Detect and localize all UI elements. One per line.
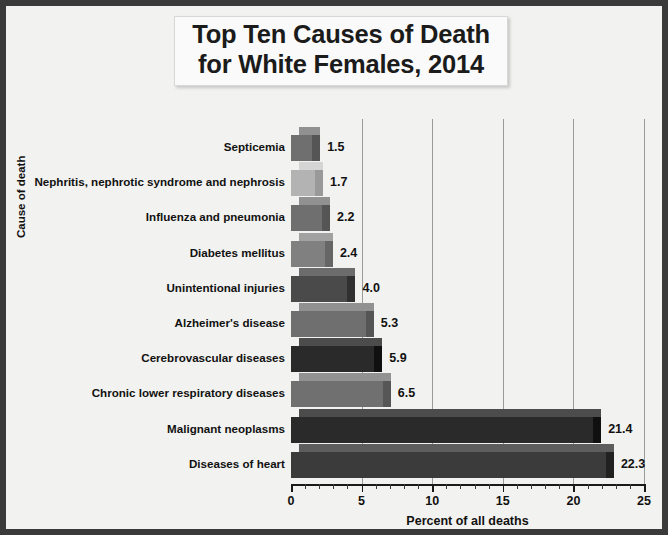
- x-tick-major: [362, 484, 364, 492]
- bar-top-face: [299, 303, 374, 311]
- category-label: Unintentional injuries: [32, 281, 285, 294]
- bar-front-face: [291, 417, 593, 443]
- bar-value-label: 4.0: [362, 281, 379, 295]
- bar: [291, 268, 355, 302]
- x-tick-minor: [305, 484, 306, 489]
- bar-value-label: 2.4: [340, 246, 357, 260]
- x-tick-minor: [475, 484, 476, 489]
- bar-value-label: 1.7: [330, 175, 347, 189]
- x-axis-title: Percent of all deaths: [291, 514, 644, 528]
- x-tick-minor: [347, 484, 348, 489]
- bar-front-face: [291, 241, 325, 267]
- x-tick-minor: [446, 484, 447, 489]
- bar-front-face: [291, 135, 312, 161]
- bar-value-label: 6.5: [398, 386, 415, 400]
- bar-value-label: 21.4: [608, 422, 632, 436]
- x-tick-major: [432, 484, 434, 492]
- x-tick-label: 25: [624, 494, 664, 508]
- x-tick-label: 10: [412, 494, 452, 508]
- bar: [291, 197, 330, 231]
- x-tick-minor: [376, 484, 377, 489]
- bar-front-face: [291, 311, 366, 337]
- category-label: Influenza and pneumonia: [32, 210, 285, 223]
- y-axis-title: Cause of death: [15, 88, 27, 238]
- chart-title-line-2: for White Females, 2014: [175, 50, 507, 80]
- x-tick-minor: [517, 484, 518, 489]
- x-tick-major: [503, 484, 505, 492]
- bar-value-label: 1.5: [327, 140, 344, 154]
- chart-title-line-1: Top Ten Causes of Death: [175, 20, 507, 50]
- x-tick-minor: [588, 484, 589, 489]
- x-tick-label: 15: [483, 494, 523, 508]
- bar-front-face: [291, 205, 322, 231]
- category-label: Diseases of heart: [32, 457, 285, 470]
- x-tick-major: [291, 484, 293, 492]
- bar: [291, 233, 333, 267]
- bar-front-face: [291, 170, 315, 196]
- bar-top-face: [299, 233, 333, 241]
- bar: [291, 373, 391, 407]
- category-label: Diabetes mellitus: [32, 246, 285, 259]
- bar-value-label: 22.3: [621, 457, 645, 471]
- category-axis-labels: SepticemiaNephritis, nephrotic syndrome …: [32, 119, 285, 484]
- x-tick-minor: [460, 484, 461, 489]
- plot-area: 1.51.72.22.44.05.35.96.521.422.3: [291, 119, 644, 484]
- category-label: Chronic lower respiratory diseases: [32, 386, 285, 399]
- x-axis-line: [291, 484, 644, 486]
- x-tick-minor: [602, 484, 603, 489]
- x-tick-minor: [531, 484, 532, 489]
- bar-front-face: [291, 452, 606, 478]
- bar-top-face: [299, 444, 614, 452]
- bar: [291, 303, 374, 337]
- bar: [291, 444, 614, 478]
- x-tick-major: [573, 484, 575, 492]
- x-tick-minor: [559, 484, 560, 489]
- x-tick-minor: [319, 484, 320, 489]
- bar-front-face: [291, 346, 374, 372]
- x-tick-minor: [404, 484, 405, 489]
- bar-front-face: [291, 276, 347, 302]
- bar-top-face: [299, 338, 382, 346]
- category-label: Septicemia: [32, 140, 285, 153]
- bar-value-label: 5.3: [381, 316, 398, 330]
- x-tick-label: 20: [553, 494, 593, 508]
- x-tick-major: [644, 484, 646, 492]
- category-label: Malignant neoplasms: [32, 422, 285, 435]
- bar: [291, 338, 382, 372]
- bar: [291, 127, 320, 161]
- bar-value-label: 5.9: [389, 351, 406, 365]
- x-tick-minor: [390, 484, 391, 489]
- gridline: [644, 119, 645, 484]
- x-tick-minor: [489, 484, 490, 489]
- category-label: Nephritis, nephrotic syndrome and nephro…: [32, 175, 285, 188]
- bar-top-face: [299, 373, 391, 381]
- bar-front-face: [291, 381, 383, 407]
- x-tick-minor: [333, 484, 334, 489]
- bar: [291, 409, 601, 443]
- x-axis: 0510152025: [291, 484, 644, 514]
- x-tick-label: 0: [271, 494, 311, 508]
- bar-value-label: 2.2: [337, 210, 354, 224]
- bar-top-face: [299, 409, 601, 417]
- x-tick-minor: [418, 484, 419, 489]
- x-tick-minor: [545, 484, 546, 489]
- bar-top-face: [299, 162, 323, 170]
- bar-top-face: [299, 197, 330, 205]
- x-tick-minor: [616, 484, 617, 489]
- x-tick-minor: [630, 484, 631, 489]
- bar-top-face: [299, 127, 320, 135]
- category-label: Cerebrovascular diseases: [32, 351, 285, 364]
- bar: [291, 162, 323, 196]
- chart-title: Top Ten Causes of Death for White Female…: [174, 16, 508, 86]
- bar-top-face: [299, 268, 355, 276]
- chart-container: Top Ten Causes of Death for White Female…: [0, 0, 668, 535]
- category-label: Alzheimer's disease: [32, 316, 285, 329]
- x-tick-label: 5: [342, 494, 382, 508]
